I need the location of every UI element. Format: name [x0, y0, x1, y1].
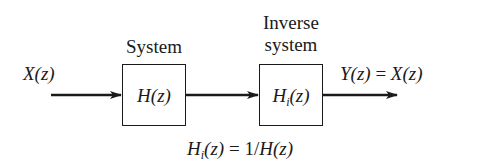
input-arg: (z) [35, 63, 55, 84]
inverse-system-title-line2: system [246, 35, 336, 54]
output-arg: (z) [351, 63, 371, 84]
output-rhs-symbol: X [391, 63, 403, 84]
system-fn-arg: (z) [151, 85, 171, 106]
system-block: H(z) [122, 64, 186, 126]
inverse-fn-arg: (z) [290, 85, 310, 106]
inverse-relation: Hi(z) = 1/H(z) [140, 139, 340, 158]
input-symbol: X [23, 63, 35, 84]
output-equals: = [371, 63, 391, 84]
inverse-fn-subscript: i [286, 95, 289, 109]
relation-rhs-numerator: 1/ [244, 138, 259, 159]
system-title: System [114, 37, 194, 56]
output-symbol: Y [340, 63, 351, 84]
relation-lhs-symbol: H [187, 138, 201, 159]
inverse-fn-symbol: H [272, 85, 286, 106]
inverse-transfer-function: Hi(z) [272, 86, 309, 105]
relation-lhs-subscript: i [201, 148, 204, 162]
inverse-system-title-line1: Inverse [246, 13, 336, 32]
relation-lhs-arg: (z) [204, 138, 224, 159]
inverse-system-block: Hi(z) [259, 64, 323, 126]
relation-rhs-symbol: H [259, 138, 273, 159]
input-label: X(z) [23, 64, 55, 83]
system-fn-symbol: H [137, 85, 151, 106]
output-label: Y(z) = X(z) [340, 64, 423, 83]
relation-equals: = [224, 138, 244, 159]
output-rhs-arg: (z) [402, 63, 422, 84]
system-transfer-function: H(z) [137, 86, 171, 105]
relation-rhs-arg: (z) [273, 138, 293, 159]
